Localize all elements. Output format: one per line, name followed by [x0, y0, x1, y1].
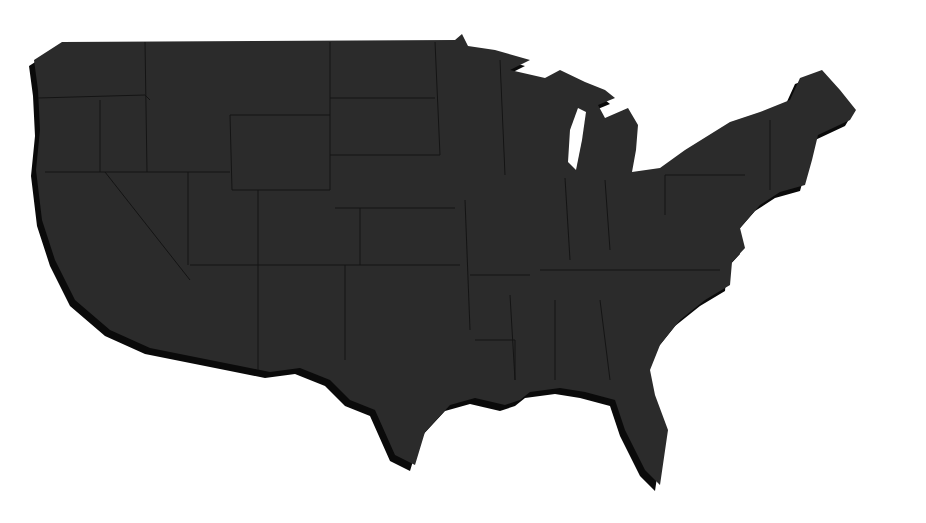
map-land: [34, 34, 856, 485]
us-map: [0, 0, 926, 523]
